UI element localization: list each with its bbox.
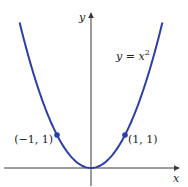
point-label: (−1, 1) xyxy=(14,133,53,146)
function-label: y = x2 xyxy=(115,48,150,63)
labeled-points: (−1, 1)(1, 1) xyxy=(14,132,157,146)
x-axis-label: x xyxy=(173,172,180,185)
point-marker xyxy=(54,132,60,138)
parabola-chart: x y (−1, 1)(1, 1) y = x2 xyxy=(0,0,188,187)
point-label: (1, 1) xyxy=(128,133,158,146)
point-marker xyxy=(122,132,128,138)
y-axis-label: y xyxy=(78,11,86,24)
